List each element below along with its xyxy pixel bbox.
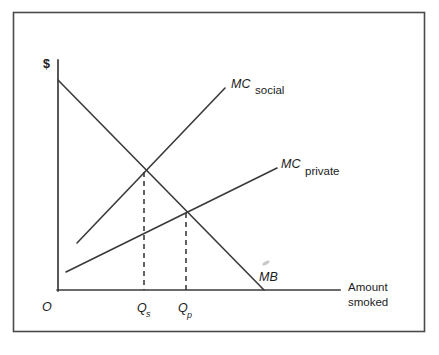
mc-social-label-italic: MC <box>231 77 252 91</box>
mb-label-italic: MB <box>259 270 278 284</box>
y-axis-label-dollar: $ <box>43 57 50 71</box>
qp-label-subscript: p <box>186 310 192 320</box>
diagram-canvas: $ O MC social MC private MB Q s Q p Amou… <box>0 0 439 355</box>
qs-label-subscript: s <box>146 309 151 319</box>
mc-social-label-qualifier: social <box>255 84 284 96</box>
x-axis-caption-line-1: Amount <box>348 281 388 293</box>
x-axis-caption-line-2: smoked <box>348 296 388 308</box>
origin-label: O <box>42 300 52 314</box>
mc-private-label-qualifier: private <box>305 165 340 177</box>
externality-diagram-figure: $ O MC social MC private MB Q s Q p Amou… <box>0 0 439 355</box>
mc-private-label-italic: MC <box>281 157 302 171</box>
